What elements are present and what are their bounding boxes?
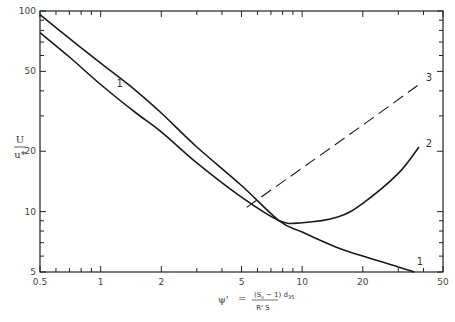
x-label-numerator: (Ss − 1) d35 — [254, 291, 294, 300]
y-tick-label: 50 — [25, 66, 37, 76]
y-tick-label: 20 — [25, 146, 37, 156]
axis-tick-labels: 0.51251020505102050100 — [19, 6, 449, 287]
plot-frame — [40, 11, 443, 272]
y-tick-label: 10 — [25, 207, 37, 217]
svg-text:R' S: R' S — [256, 304, 270, 312]
curves — [40, 15, 419, 272]
curve-label-1: 1 — [117, 78, 123, 89]
x-tick-label: 1 — [98, 277, 104, 287]
x-tick-label: 10 — [296, 277, 308, 287]
svg-text:u*: u* — [14, 149, 25, 160]
curve-label-3: 3 — [426, 72, 432, 83]
x-axis-label: ψ' = (Ss − 1) d35 R' S — [218, 291, 294, 312]
curve-label-2: 2 — [426, 138, 432, 149]
svg-text:U: U — [16, 134, 24, 145]
axis-ticks — [40, 11, 443, 272]
x-tick-label: 5 — [239, 277, 245, 287]
chart: 0.51251020505102050100 1123 U u* ψ' = (S… — [0, 0, 455, 322]
curve-1 — [40, 15, 414, 272]
svg-text:ψ': ψ' — [218, 294, 229, 305]
y-tick-label: 5 — [30, 267, 36, 277]
x-tick-label: 20 — [357, 277, 369, 287]
svg-text:=: = — [238, 293, 246, 304]
x-tick-label: 50 — [437, 277, 449, 287]
y-tick-label: 100 — [19, 6, 36, 16]
x-tick-label: 0.5 — [33, 277, 47, 287]
x-tick-label: 2 — [158, 277, 164, 287]
curve-2 — [40, 33, 419, 224]
y-axis-label: U u* — [14, 134, 26, 160]
curve-label-1: 1 — [417, 256, 423, 267]
curve-3 — [247, 85, 419, 208]
curve-labels: 1123 — [117, 72, 432, 268]
